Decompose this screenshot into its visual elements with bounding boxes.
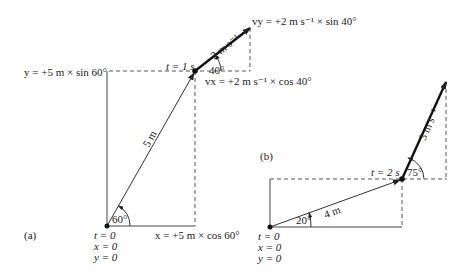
time-point-b: t = 2 s — [371, 166, 400, 178]
vy-component-label: vy = +2 m s⁻¹ × sin 40° — [252, 15, 357, 27]
panel-a-graphics — [105, 28, 251, 229]
displacement-vector-a — [107, 73, 194, 226]
angle-label-20: 20° — [296, 214, 311, 226]
x-component-label: x = +5 m × cos 60° — [155, 229, 240, 241]
origin-y-a: y = 0 — [94, 251, 117, 263]
time-point-a: t = 1 s — [166, 60, 195, 72]
panel-b-graphics — [268, 82, 448, 230]
panel-b-label: (b) — [260, 150, 273, 162]
vx-component-label: vx = +2 m s⁻¹ × cos 40° — [205, 75, 312, 87]
origin-dot-a — [105, 224, 110, 229]
angle-label-75: 75° — [407, 166, 422, 178]
panel-a-label: (a) — [24, 229, 36, 241]
y-component-label: y = +5 m × sin 60° — [24, 66, 107, 78]
origin-dot-b — [268, 225, 273, 230]
angle-label-60: 60° — [112, 213, 127, 225]
kinematics-figure: (a) t = 0 x = 0 y = 0 x = +5 m × cos 60°… — [0, 0, 468, 276]
origin-y-b: y = 0 — [258, 252, 281, 264]
point-dot-b — [399, 176, 405, 182]
